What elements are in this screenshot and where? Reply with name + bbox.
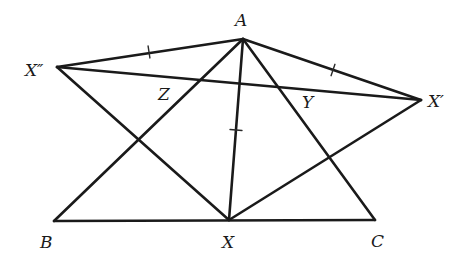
label-b: B — [39, 232, 53, 252]
segment-ac — [243, 39, 375, 220]
tick-mark-ax — [230, 130, 242, 131]
segment-ax-double-prime — [57, 39, 243, 67]
tick-mark-ax-double-prime — [148, 46, 150, 58]
label-a: A — [233, 10, 247, 30]
segment-x-x-double-prime — [57, 67, 229, 220]
label-c: C — [371, 231, 384, 251]
segment-ab — [54, 39, 243, 221]
segment-bc — [54, 220, 375, 221]
label-x: X — [220, 232, 235, 252]
label-x-double-prime: X″ — [23, 60, 44, 80]
segment-x-x-prime — [229, 100, 421, 220]
label-z: Z — [157, 84, 171, 104]
geometry-diagram: A B C X X′ X″ Y Z — [0, 0, 473, 257]
label-y: Y — [302, 92, 315, 112]
label-x-prime: X′ — [426, 91, 444, 111]
